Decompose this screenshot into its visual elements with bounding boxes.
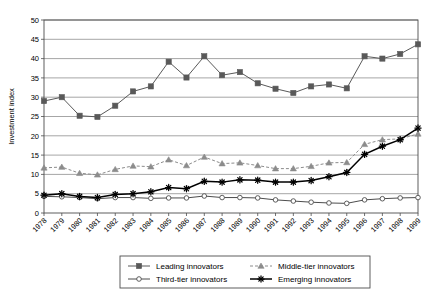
x-tick-label: 1987 — [191, 216, 209, 234]
data-point-marker — [130, 191, 136, 197]
y-tick-label: 20 — [31, 132, 39, 141]
x-tick-label: 1998 — [387, 216, 405, 234]
data-point-marker — [291, 90, 296, 95]
data-point-marker — [344, 201, 349, 206]
data-point-marker — [220, 195, 225, 200]
data-point-marker — [326, 174, 332, 180]
data-point-marker — [183, 186, 189, 192]
x-tick-label: 1978 — [30, 216, 48, 234]
x-tick-label: 1979 — [48, 216, 66, 234]
data-point-marker — [166, 59, 171, 64]
y-tick-label: 40 — [31, 54, 39, 63]
x-tick-label: 1994 — [315, 216, 333, 234]
legend-label: Third-tier innovators — [156, 275, 227, 284]
data-point-marker — [380, 196, 385, 201]
data-point-marker — [148, 84, 153, 89]
x-tick-label: 1993 — [298, 216, 316, 234]
data-point-marker — [202, 54, 207, 59]
data-point-marker — [201, 178, 207, 184]
x-tick-label: 1986 — [173, 216, 191, 234]
x-tick-label: 1989 — [226, 216, 244, 234]
data-point-marker — [255, 177, 261, 183]
data-point-marker — [397, 137, 403, 143]
data-point-marker — [361, 151, 367, 157]
data-point-marker — [344, 86, 349, 91]
legend-label: Emerging innovators — [278, 275, 351, 284]
y-tick-label: 0 — [35, 209, 39, 218]
data-point-marker — [137, 277, 142, 282]
data-point-marker — [379, 143, 385, 149]
x-tick-label: 1990 — [244, 216, 262, 234]
data-point-marker — [237, 177, 243, 183]
data-point-marker — [148, 189, 154, 195]
x-tick-label: 1985 — [155, 216, 173, 234]
x-tick-label: 1991 — [262, 216, 280, 234]
y-tick-label: 10 — [31, 170, 39, 179]
chart-canvas: 0510152025303540455019781979198019811982… — [0, 0, 427, 300]
data-point-marker — [415, 42, 420, 47]
y-tick-label: 25 — [31, 112, 39, 121]
data-point-marker — [415, 125, 421, 131]
data-point-marker — [166, 196, 171, 201]
data-point-marker — [130, 89, 135, 94]
y-tick-label: 30 — [31, 93, 39, 102]
y-tick-label: 35 — [31, 74, 39, 83]
data-point-marker — [398, 51, 403, 56]
y-tick-label: 50 — [31, 16, 39, 25]
data-point-marker — [327, 201, 332, 206]
data-point-marker — [398, 196, 403, 201]
x-tick-label: 1997 — [369, 216, 387, 234]
data-point-marker — [41, 98, 46, 103]
y-tick-label: 45 — [31, 35, 39, 44]
data-point-marker — [273, 86, 278, 91]
y-tick-label: 5 — [35, 189, 39, 198]
data-point-marker — [272, 179, 278, 185]
investment-index-chart: 0510152025303540455019781979198019811982… — [0, 0, 427, 300]
data-point-marker — [112, 191, 118, 197]
x-tick-label: 1982 — [102, 216, 120, 234]
data-point-marker — [136, 263, 141, 268]
x-tick-label: 1981 — [84, 216, 102, 234]
x-tick-label: 1988 — [209, 216, 227, 234]
data-point-marker — [309, 84, 314, 89]
data-point-marker — [184, 196, 189, 201]
data-point-marker — [362, 198, 367, 203]
data-point-marker — [326, 82, 331, 87]
data-point-marker — [149, 196, 154, 201]
data-point-marker — [255, 81, 260, 86]
data-point-marker — [41, 192, 47, 198]
x-tick-label: 1995 — [333, 216, 351, 234]
data-point-marker — [255, 196, 260, 201]
data-point-marker — [308, 177, 314, 183]
y-axis-title: Investment index — [7, 88, 16, 145]
x-axis: 1978197919801981198219831984198519861987… — [30, 213, 422, 234]
data-point-marker — [309, 200, 314, 205]
data-point-marker — [238, 195, 243, 200]
data-point-marker — [184, 75, 189, 80]
data-point-marker — [77, 193, 83, 199]
data-point-marker — [77, 113, 82, 118]
data-point-marker — [219, 179, 225, 185]
legend-label: Leading innovators — [156, 262, 224, 271]
data-point-marker — [290, 179, 296, 185]
data-point-marker — [362, 54, 367, 59]
data-point-marker — [291, 199, 296, 204]
data-point-marker — [380, 56, 385, 61]
y-tick-label: 15 — [31, 151, 39, 160]
data-point-marker — [94, 194, 100, 200]
legend-label: Middle-tier innovators — [278, 262, 354, 271]
data-point-marker — [219, 73, 224, 78]
data-point-marker — [344, 169, 350, 175]
x-tick-label: 1999 — [404, 216, 422, 234]
data-point-marker — [166, 184, 172, 190]
x-tick-label: 1996 — [351, 216, 369, 234]
data-point-marker — [59, 191, 65, 197]
data-point-marker — [273, 198, 278, 203]
x-tick-label: 1992 — [280, 216, 298, 234]
data-point-marker — [202, 194, 207, 199]
data-point-marker — [258, 276, 264, 282]
data-point-marker — [113, 103, 118, 108]
chart-legend: Leading innovatorsMiddle-tier innovators… — [120, 256, 370, 288]
x-tick-label: 1983 — [119, 216, 137, 234]
data-point-marker — [416, 195, 421, 200]
